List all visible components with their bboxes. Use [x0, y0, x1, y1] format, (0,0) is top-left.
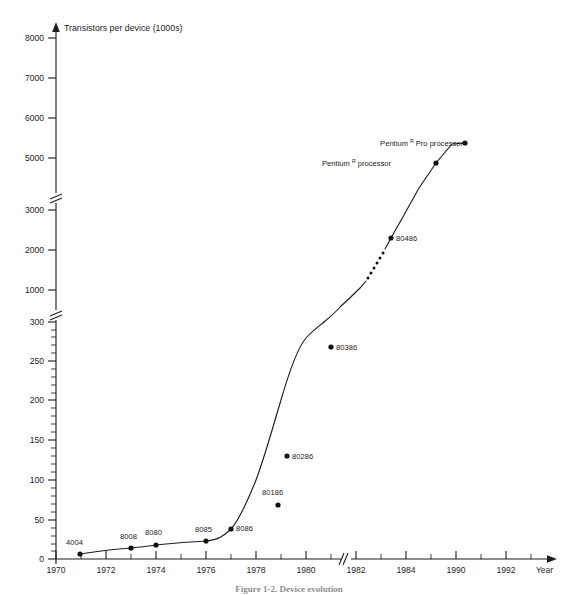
label-pentium-pro: Pentium [380, 139, 408, 148]
label-pentium: Pentium [322, 159, 350, 168]
registered-mark-icon-2: R [410, 138, 414, 144]
y-tick-label-300: 300 [30, 317, 45, 327]
y-tick-label-100: 100 [30, 475, 45, 485]
y-tick-label-5000: 5000 [25, 153, 44, 163]
y-tick-label-8000: 8000 [25, 33, 44, 43]
y-tick-label-1000: 1000 [25, 285, 44, 295]
y-tick-label-50: 50 [34, 515, 44, 525]
label-80386: 80386 [336, 343, 357, 352]
data-point-8008[interactable] [128, 545, 133, 550]
label-8086: 8086 [236, 524, 253, 533]
label-80286: 80286 [292, 452, 313, 461]
y-tick-label-2000: 2000 [25, 245, 44, 255]
y-tick-label-7000: 7000 [25, 73, 44, 83]
chart-canvas: 8000 7000 6000 5000 3000 2000 1000 300 2… [0, 0, 578, 595]
data-point-labels: 4004 8008 8080 8085 8086 80186 80286 803… [66, 138, 463, 548]
y-axis-title: Transistors per device (1000s) [64, 23, 183, 33]
curve-segment-lower [80, 322, 324, 554]
data-point-80186[interactable] [275, 502, 280, 507]
x-axis: 1970 1972 1974 1976 1978 1980 1982 1984 … [46, 551, 565, 575]
x-tick-label-1992: 1992 [496, 565, 515, 575]
label-80486: 80486 [396, 234, 417, 243]
curve-segment-dotted [367, 252, 385, 280]
label-pentium-pro-group: PentiumRPro processor [380, 138, 463, 149]
curve-segment-mid [341, 281, 366, 306]
y-axis-break-upper [50, 194, 62, 203]
svg-text:PentiumRprocessor: PentiumRprocessor [322, 158, 391, 169]
data-point-pentium-pro[interactable] [462, 140, 467, 145]
x-tick-label-1984: 1984 [396, 565, 415, 575]
x-tick-label-1982: 1982 [346, 565, 365, 575]
data-point-8085[interactable] [203, 538, 208, 543]
y-tick-label-0: 0 [39, 554, 44, 564]
data-point-8086[interactable] [228, 526, 233, 531]
x-tick-label-1980: 1980 [296, 565, 315, 575]
data-point-8080[interactable] [153, 542, 158, 547]
data-point-80486[interactable] [388, 235, 393, 240]
label-80186: 80186 [262, 488, 283, 497]
x-tick-label-1978: 1978 [246, 565, 265, 575]
x-tick-label-1972: 1972 [96, 565, 115, 575]
label-4004: 4004 [66, 538, 83, 547]
label-pentium-pro-suffix: Pro processor [416, 139, 464, 148]
curve-segment-crossbreak-low [324, 306, 341, 322]
y-tick-label-200: 200 [30, 395, 45, 405]
y-tick-label-250: 250 [30, 356, 45, 366]
svg-text:PentiumRPro processor: PentiumRPro processor [380, 138, 463, 149]
label-8085: 8085 [195, 525, 212, 534]
y-tick-label-3000: 3000 [25, 205, 44, 215]
data-point-80386[interactable] [328, 344, 333, 349]
y-axis-break-lower [50, 311, 62, 320]
data-point-pentium[interactable] [433, 160, 438, 165]
label-8080: 8080 [145, 528, 162, 537]
label-8008: 8008 [120, 532, 137, 541]
x-tick-label-1990: 1990 [446, 565, 465, 575]
data-point-80286[interactable] [284, 453, 289, 458]
label-pentium-group: PentiumRprocessor [322, 158, 391, 169]
x-axis-name: Year [536, 565, 553, 575]
y-axis: 8000 7000 6000 5000 3000 2000 1000 300 2… [25, 22, 183, 564]
data-point-4004[interactable] [77, 551, 82, 556]
y-tick-label-150: 150 [30, 435, 45, 445]
x-tick-label-1970: 1970 [46, 565, 65, 575]
x-tick-label-1974: 1974 [146, 565, 165, 575]
registered-mark-icon: R [352, 158, 356, 164]
y-axis-arrowhead [52, 22, 60, 32]
figure-device-evolution: 8000 7000 6000 5000 3000 2000 1000 300 2… [0, 0, 578, 595]
x-axis-arrowhead [547, 555, 557, 563]
x-tick-label-1976: 1976 [196, 565, 215, 575]
label-pentium-suffix: processor [358, 159, 392, 168]
y-tick-label-6000: 6000 [25, 113, 44, 123]
figure-caption: Figure 1-2. Device evolution [235, 584, 342, 594]
